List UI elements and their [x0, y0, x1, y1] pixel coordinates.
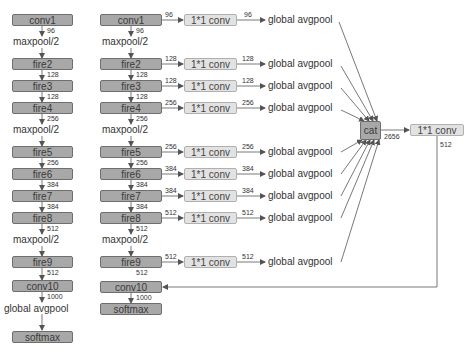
left-conv1: conv1 [12, 14, 73, 26]
right-softmax: softmax [100, 303, 162, 315]
branch-in-label: 256 [165, 99, 177, 106]
final-conv: 1*1 conv [410, 124, 464, 136]
left-edge-label: 384 [47, 203, 59, 210]
right-edge-label: 128 [136, 93, 148, 100]
branch-conv: 1*1 conv [184, 168, 237, 180]
left-maxpool-1: maxpool/2 [13, 36, 59, 47]
right-fire7: fire7 [100, 190, 162, 202]
left-fire9: fire9 [12, 256, 73, 268]
branch-in-label: 512 [165, 209, 177, 216]
branch-in-label: 512 [165, 253, 177, 260]
branch-conv: 1*1 conv [184, 190, 237, 202]
branch-gap: global avgpool [268, 58, 333, 69]
branch-gap: global avgpool [268, 80, 333, 91]
branch-conv: 1*1 conv [184, 80, 237, 92]
left-maxpool-3: maxpool/2 [13, 234, 59, 245]
left-edge-label: 256 [47, 159, 59, 166]
right-conv10: conv10 [100, 281, 162, 293]
branch-out-label: 128 [242, 55, 254, 62]
left-global-avgpool: global avgpool [4, 303, 69, 314]
right-fire3: fire3 [100, 80, 162, 92]
branch-conv: 1*1 conv [184, 146, 237, 158]
left-edge-label: 384 [47, 181, 59, 188]
branch-gap: global avgpool [268, 256, 333, 267]
branch-out-label: 256 [242, 99, 254, 106]
left-edge-label: 256 [47, 115, 59, 122]
right-conv1: conv1 [100, 14, 162, 26]
branch-gap: global avgpool [268, 102, 333, 113]
right-fire8: fire8 [100, 212, 162, 224]
right-fire9: fire9 [100, 256, 162, 268]
branch-out-label: 256 [242, 143, 254, 150]
branch-in-label: 256 [165, 143, 177, 150]
branch-out-label: 384 [242, 187, 254, 194]
left-fire4: fire4 [12, 102, 73, 114]
right-fire6: fire6 [100, 168, 162, 180]
branch-conv: 1*1 conv [184, 14, 237, 26]
branch-conv: 1*1 conv [184, 58, 237, 70]
left-edge-label: 96 [47, 27, 55, 34]
right-edge-label: 1000 [136, 294, 152, 301]
branch-gap: global avgpool [268, 190, 333, 201]
branch-gap: global avgpool [268, 146, 333, 157]
branch-in-label: 128 [165, 77, 177, 84]
right-edge-label: 96 [136, 27, 144, 34]
branch-in-label: 384 [165, 165, 177, 172]
branch-gap: global avgpool [268, 14, 333, 25]
branch-out-label: 512 [242, 209, 254, 216]
left-fire8: fire8 [12, 212, 73, 224]
branch-in-label: 128 [165, 55, 177, 62]
right-fire5: fire5 [100, 146, 162, 158]
left-fire3: fire3 [12, 80, 73, 92]
cat-node: cat [360, 121, 381, 140]
right-edge-label: 128 [136, 71, 148, 78]
branch-conv: 1*1 conv [184, 212, 237, 224]
left-fire7: fire7 [12, 190, 73, 202]
branch-gap: global avgpool [268, 168, 333, 179]
branch-in-label: 384 [165, 187, 177, 194]
right-edge-label: 512 [136, 225, 148, 232]
branch-out-label: 384 [242, 165, 254, 172]
left-edge-label: 128 [47, 71, 59, 78]
right-maxpool-3: maxpool/2 [102, 234, 148, 245]
right-edge-label: 512 [136, 269, 148, 276]
right-fire2: fire2 [100, 58, 162, 70]
left-edge-label: 512 [47, 225, 59, 232]
left-fire6: fire6 [12, 168, 73, 180]
right-maxpool-2: maxpool/2 [102, 124, 148, 135]
left-maxpool-2: maxpool/2 [13, 124, 59, 135]
right-maxpool-1: maxpool/2 [102, 36, 148, 47]
left-softmax: softmax [12, 331, 73, 343]
branch-out-label: 96 [244, 11, 252, 18]
left-fire2: fire2 [12, 58, 73, 70]
branch-in-label: 96 [165, 11, 173, 18]
right-edge-label: 384 [136, 181, 148, 188]
branch-conv: 1*1 conv [184, 102, 237, 114]
left-conv10: conv10 [12, 280, 73, 292]
right-fire4: fire4 [100, 102, 162, 114]
branch-out-label: 128 [242, 77, 254, 84]
right-edge-label: 256 [136, 159, 148, 166]
left-edge-label: 512 [47, 269, 59, 276]
final-conv-out-label: 512 [440, 141, 452, 148]
cat-out-label: 2656 [384, 133, 400, 140]
branch-conv: 1*1 conv [184, 256, 237, 268]
right-edge-label: 384 [136, 203, 148, 210]
left-edge-label: 1000 [47, 293, 63, 300]
branch-out-label: 512 [242, 253, 254, 260]
branch-gap: global avgpool [268, 212, 333, 223]
left-fire5: fire5 [12, 146, 73, 158]
left-edge-label: 128 [47, 93, 59, 100]
right-edge-label: 256 [136, 115, 148, 122]
